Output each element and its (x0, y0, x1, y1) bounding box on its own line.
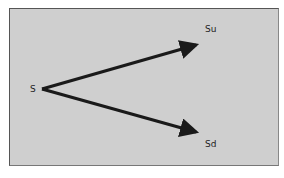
edge-root-to-up (42, 45, 196, 89)
edge-root-to-down (42, 89, 196, 132)
node-label-up: Su (205, 24, 216, 34)
binomial-tree-diagram: S Su Sd (0, 0, 284, 178)
node-label-root: S (30, 84, 36, 94)
node-label-down: Sd (205, 139, 216, 149)
